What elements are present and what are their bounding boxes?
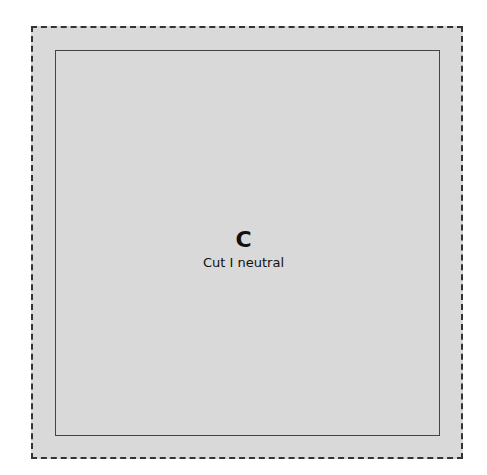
- panel-caption: Cut I neutral: [0, 255, 487, 271]
- panel-letter: C: [0, 228, 487, 252]
